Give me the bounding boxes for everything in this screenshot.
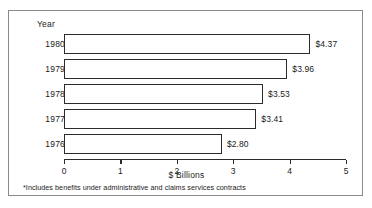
bar-value-label: $2.80 bbox=[227, 133, 249, 155]
bar-category-label: 1977 bbox=[23, 108, 65, 130]
bar-value-label: $4.37 bbox=[315, 33, 337, 55]
x-axis-line bbox=[64, 159, 346, 160]
bar bbox=[64, 109, 256, 129]
bar-category-label: 1980 bbox=[23, 33, 65, 55]
bar-value-label: $3.53 bbox=[268, 83, 290, 105]
bar bbox=[64, 59, 287, 79]
bar-category-label: 1979 bbox=[23, 58, 65, 80]
chart-figure: Year 1980$4.371979$3.961978$3.531977$3.4… bbox=[8, 10, 363, 196]
bar bbox=[64, 84, 263, 104]
bar bbox=[64, 134, 222, 154]
bar-category-label: 1978 bbox=[23, 83, 65, 105]
bar-category-label: 1976 bbox=[23, 133, 65, 155]
x-axis-tick bbox=[120, 160, 121, 164]
x-axis-tick bbox=[177, 160, 178, 164]
x-axis-tick bbox=[233, 160, 234, 164]
chart-footnote: *Includes benefits under administrative … bbox=[23, 183, 246, 192]
bar-value-label: $3.41 bbox=[261, 108, 283, 130]
x-axis-title: $ Billions bbox=[9, 170, 364, 180]
x-axis-tick bbox=[64, 160, 65, 164]
bar-value-label: $3.96 bbox=[292, 58, 314, 80]
x-axis-tick bbox=[290, 160, 291, 164]
x-axis-tick bbox=[346, 160, 347, 164]
bar bbox=[64, 34, 310, 54]
